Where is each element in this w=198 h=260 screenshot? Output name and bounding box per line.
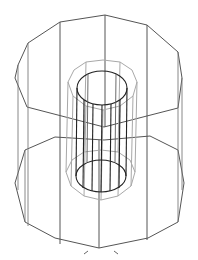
wireframe-canvas: Wireframe 3D render of nested prisms: ou…: [0, 0, 198, 260]
outer-shell: [15, 15, 184, 248]
wireframe-drawing: [0, 0, 198, 260]
figure-description: Wireframe 3D render of nested prisms: ou…: [0, 0, 45, 1]
bottom-marks: [84, 251, 118, 254]
